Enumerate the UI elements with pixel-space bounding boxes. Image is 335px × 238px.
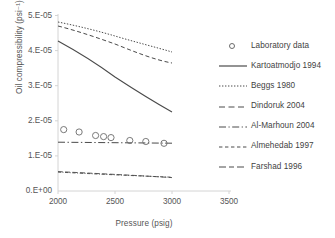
series-line-almehedab-1997 bbox=[58, 26, 172, 63]
data-point bbox=[76, 129, 82, 135]
legend-label: Almehedab 1997 bbox=[251, 141, 314, 150]
legend-label: Farshad 1996 bbox=[251, 162, 302, 171]
legend-item-kartoatmodjo-1994[interactable]: Kartoatmodjo 1994 bbox=[218, 56, 335, 76]
series-line-beggs-1980 bbox=[58, 22, 172, 52]
legend-marker-dash-dot-line-icon bbox=[218, 117, 248, 137]
series-line-farshad-1996 bbox=[58, 142, 172, 143]
legend-item-beggs-1980[interactable]: Beggs 1980 bbox=[218, 76, 335, 96]
legend-item-laboratory-data[interactable]: Laboratory data bbox=[218, 36, 335, 56]
legend-marker-solid-line-icon bbox=[218, 56, 248, 76]
legend-marker-dotted-line-icon bbox=[218, 76, 248, 96]
data-point bbox=[93, 132, 99, 138]
legend-label: Kartoatmodjo 1994 bbox=[251, 61, 321, 70]
series-line-kartoatmodjo-1994 bbox=[58, 41, 172, 112]
legend-marker-open-circle-icon bbox=[218, 36, 248, 56]
legend-item-farshad-1996[interactable]: Farshad 1996 bbox=[218, 157, 335, 177]
chart-figure: Oil compressibility (psi⁻¹) 5.E-05 4.E-0… bbox=[0, 0, 335, 238]
data-point bbox=[61, 127, 67, 133]
chart-legend: Laboratory data Kartoatmodjo 1994 Beggs … bbox=[218, 36, 335, 177]
legend-label: Al-Marhoun 2004 bbox=[251, 121, 315, 130]
legend-item-almehedab-1997[interactable]: Almehedab 1997 bbox=[218, 137, 335, 157]
legend-marker-long-dash-line-icon bbox=[218, 97, 248, 117]
data-point bbox=[143, 138, 149, 144]
legend-label: Beggs 1980 bbox=[251, 81, 295, 90]
series-line-al-marhoun-2004 bbox=[58, 172, 172, 177]
legend-label: Laboratory data bbox=[251, 41, 309, 50]
legend-marker-dashed-line-icon bbox=[218, 137, 248, 157]
legend-item-al-marhoun-2004[interactable]: Al-Marhoun 2004 bbox=[218, 117, 335, 137]
legend-item-dindoruk-2004[interactable]: Dindoruk 2004 bbox=[218, 97, 335, 117]
data-point bbox=[101, 134, 107, 140]
series-markers-laboratory-data bbox=[61, 127, 167, 147]
legend-label: Dindoruk 2004 bbox=[251, 101, 305, 110]
data-point bbox=[108, 135, 114, 141]
legend-marker-dash-dot-long-line-icon bbox=[218, 157, 248, 177]
